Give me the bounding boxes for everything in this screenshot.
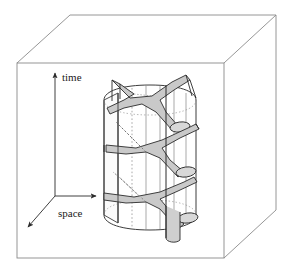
spacetime-diagram: time space bbox=[0, 0, 287, 274]
vertex-bottom-leg bbox=[166, 206, 180, 242]
figure-container: time space bbox=[0, 0, 287, 274]
box-edge-bottom-right-diagonal bbox=[224, 210, 276, 258]
space-axis-label: space bbox=[58, 207, 83, 219]
box-edge-top-left-diagonal bbox=[17, 15, 70, 63]
box-edge-top-right-diagonal bbox=[224, 15, 276, 63]
time-axis-label: time bbox=[62, 71, 82, 83]
string-worldsheet bbox=[104, 75, 199, 242]
